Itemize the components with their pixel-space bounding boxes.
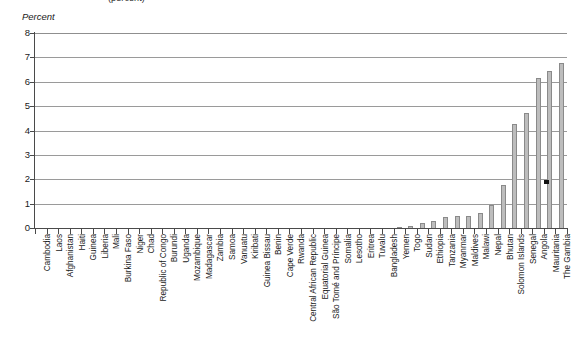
x-label-chad: Chad	[148, 234, 156, 254]
x-label-uganda: Uganda	[183, 234, 191, 263]
bar-slot	[162, 33, 174, 228]
x-label-cape-verde: Cape Verde	[287, 234, 295, 277]
x-label-maldives: Maldives	[472, 234, 480, 266]
x-label-ethiopia: Ethiopia	[437, 234, 445, 264]
y-tick-mark-1	[30, 204, 35, 205]
x-label-mauritania: Mauritania	[553, 234, 561, 272]
bar-slot	[289, 33, 301, 228]
bar-slot	[93, 33, 105, 228]
x-label-central-african-republic: Central African Republic	[310, 234, 318, 322]
x-label-senegal: Senegal	[530, 234, 538, 264]
x-label-solomon-islands: Solomon Islands	[518, 234, 526, 295]
bar-slot	[451, 33, 463, 228]
bar	[420, 223, 425, 228]
bar-slot	[139, 33, 151, 228]
x-label-sudan: Sudan	[426, 234, 434, 258]
bar-slot	[347, 33, 359, 228]
x-label-niger: Niger	[137, 234, 145, 254]
bar-slot	[174, 33, 186, 228]
bar-slot	[359, 33, 371, 228]
x-label-eritrea: Eritrea	[368, 234, 376, 258]
x-label-s-o-tom-and-pr-ncipe: São Tomé and Príncipe	[333, 234, 341, 319]
bar-slot	[47, 33, 59, 228]
bar-slot	[220, 33, 232, 228]
y-tick-mark-6	[30, 82, 35, 83]
x-label-afghanistan: Afghanistan	[67, 234, 75, 277]
bar-slot	[116, 33, 128, 228]
x-label-burkina-faso: Burkina Faso	[125, 234, 133, 282]
bar-slot	[278, 33, 290, 228]
x-label-yemen: Yemen	[403, 234, 411, 259]
x-label-madagascar: Madagascar	[206, 234, 214, 279]
bar	[559, 63, 564, 228]
bar	[501, 185, 506, 228]
bar-slot	[486, 33, 498, 228]
bar	[547, 71, 552, 228]
y-tick-mark-7	[30, 57, 35, 58]
bar-slot	[35, 33, 47, 228]
x-label-cambodia: Cambodia	[44, 234, 52, 271]
bar-slot	[185, 33, 197, 228]
bar-slot	[232, 33, 244, 228]
x-label-benin: Benin	[275, 234, 283, 255]
y-tick-label-7: 7	[8, 52, 30, 62]
stray-mark	[544, 180, 549, 184]
x-label-tuvalu: Tuvalu	[379, 234, 387, 258]
bar	[489, 205, 494, 228]
y-tick-mark-3	[30, 155, 35, 156]
x-label-bhutan: Bhutan	[507, 234, 515, 260]
bar-slot	[336, 33, 348, 228]
bar-slot	[243, 33, 255, 228]
y-axis-tick-labels: 876543210	[0, 0, 30, 354]
bar-slot	[151, 33, 163, 228]
clipped-chart-title: (percent)	[108, 0, 145, 3]
y-tick-label-3: 3	[8, 150, 30, 160]
bar-slot	[208, 33, 220, 228]
bar-slot	[104, 33, 116, 228]
bar-slot	[70, 33, 82, 228]
x-label-togo: Togo	[414, 234, 422, 252]
y-tick-label-1: 1	[8, 199, 30, 209]
bar-slot	[417, 33, 429, 228]
bar-slot	[463, 33, 475, 228]
bar	[512, 124, 517, 228]
bar	[455, 216, 460, 228]
bar	[478, 213, 483, 228]
bar-slot	[394, 33, 406, 228]
bar-slot	[128, 33, 140, 228]
bar-slot	[440, 33, 452, 228]
x-label-guinea: Guinea	[90, 234, 98, 260]
bar-slot	[313, 33, 325, 228]
y-tick-label-2: 2	[8, 174, 30, 184]
x-label-samoa: Samoa	[229, 234, 237, 260]
x-label-myanmar: Myanmar	[460, 234, 468, 268]
bar	[408, 226, 413, 228]
bar-slot	[266, 33, 278, 228]
x-label-laos: Laos	[56, 234, 64, 252]
x-label-vanuatu: Vanuatu	[241, 234, 249, 264]
bar-slot	[498, 33, 510, 228]
y-tick-mark-2	[30, 179, 35, 180]
bar-slot	[301, 33, 313, 228]
bar-slot	[428, 33, 440, 228]
y-tick-label-8: 8	[8, 28, 30, 38]
x-label-rwanda: Rwanda	[298, 234, 306, 264]
bar-slot	[509, 33, 521, 228]
y-tick-label-5: 5	[8, 101, 30, 111]
y-tick-mark-8	[30, 33, 35, 34]
x-label-guinea-bissau: Guinea Bissau	[264, 234, 272, 287]
y-tick-label-0: 0	[8, 223, 30, 233]
bar	[536, 78, 541, 228]
x-label-burundi: Burundi	[171, 234, 179, 262]
bar-slot	[324, 33, 336, 228]
x-label-malawi: Malawi	[483, 234, 491, 259]
x-label-bangladesh: Bangladesh	[391, 234, 399, 277]
bar	[397, 227, 402, 228]
x-label-mozambique: Mozambique	[194, 234, 202, 281]
bar-slot	[521, 33, 533, 228]
bar	[431, 221, 436, 228]
bar-slot	[405, 33, 417, 228]
y-tick-mark-4	[30, 131, 35, 132]
bar	[466, 216, 471, 228]
x-label-republic-of-congo: Republic of Congo	[160, 234, 168, 301]
